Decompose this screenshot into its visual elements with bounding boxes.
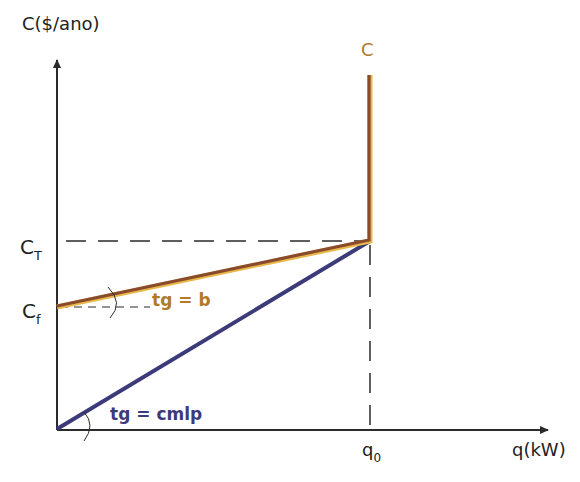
x-axis-label: q(kW) — [512, 439, 566, 460]
angle-arc-b — [108, 287, 117, 318]
ct-label: CT — [20, 235, 42, 263]
slope-b-label: tg = b — [152, 290, 211, 310]
cost-diagram: C($/ano) q(kW) C CT Cf q0 tg = b tg = cm… — [0, 0, 580, 482]
slope-cmlp-label: tg = cmlp — [110, 404, 202, 424]
curve-label-c: C — [361, 39, 374, 60]
angle-arc-cmlp — [84, 412, 90, 441]
blue-cost-line — [57, 241, 370, 429]
q0-label: q0 — [362, 439, 381, 465]
cf-label: Cf — [22, 299, 41, 327]
y-axis-label: C($/ano) — [22, 13, 100, 34]
